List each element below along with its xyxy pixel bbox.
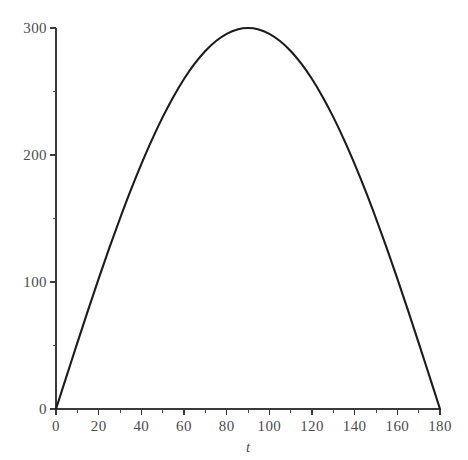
x-axis: [56, 409, 440, 415]
data-series-group: [56, 28, 440, 409]
y-axis: [50, 28, 56, 409]
y-axis-tick-label: 300: [23, 20, 47, 37]
x-axis-tick-label: 80: [219, 418, 235, 435]
x-axis-tick-label: 120: [300, 418, 324, 435]
plot-area: [0, 0, 468, 460]
x-axis-tick-label: 0: [52, 418, 60, 435]
x-axis-tick-label: 140: [343, 418, 367, 435]
x-axis-title: t: [246, 439, 250, 456]
chart-figure: 0100200300 020406080100120140160180 t: [0, 0, 468, 460]
y-axis-tick-label: 100: [23, 274, 47, 291]
x-axis-tick-label: 160: [385, 418, 409, 435]
y-axis-tick-label: 200: [23, 147, 47, 164]
data-series-line-0: [56, 28, 440, 409]
x-axis-tick-label: 180: [428, 418, 452, 435]
x-axis-tick-label: 20: [91, 418, 107, 435]
x-axis-tick-label: 40: [133, 418, 149, 435]
x-axis-tick-label: 100: [257, 418, 281, 435]
x-axis-tick-label: 60: [176, 418, 192, 435]
y-axis-tick-label: 0: [39, 401, 47, 418]
